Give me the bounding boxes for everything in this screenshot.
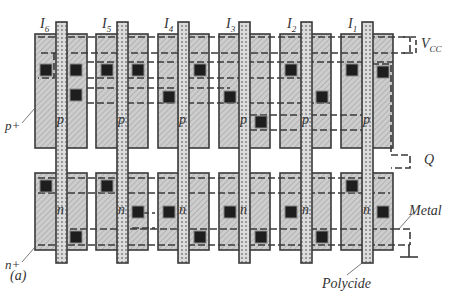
metal-label: Metal <box>409 203 442 219</box>
channel-label-n2: n <box>118 202 125 218</box>
output-q-label: Q <box>424 152 434 168</box>
figure-caption: (a) <box>10 268 26 284</box>
gate-label-i1: I1 <box>348 16 357 34</box>
channel-label-n6: n <box>363 202 370 218</box>
channel-label-p4: p <box>240 112 247 128</box>
polycide-label: Polycide <box>322 276 371 292</box>
channel-label-n4: n <box>240 202 247 218</box>
channel-label-p3: p <box>179 112 186 128</box>
channel-label-p6: p <box>363 112 370 128</box>
channel-label-p1: p <box>57 112 64 128</box>
channel-label-n3: n <box>179 202 186 218</box>
gate-label-i6: I6 <box>40 16 49 34</box>
channel-label-p5: p <box>302 112 309 128</box>
channel-label-n5: n <box>302 202 309 218</box>
gate-label-i2: I2 <box>287 16 296 34</box>
channel-label-p2: p <box>118 112 125 128</box>
vcc-label: VCC <box>421 36 442 54</box>
gate-label-i5: I5 <box>102 16 111 34</box>
channel-label-n1: n <box>57 202 64 218</box>
p-plus-label: p+ <box>5 118 20 134</box>
gate-label-i3: I3 <box>226 16 235 34</box>
gate-label-i4: I4 <box>164 16 173 34</box>
